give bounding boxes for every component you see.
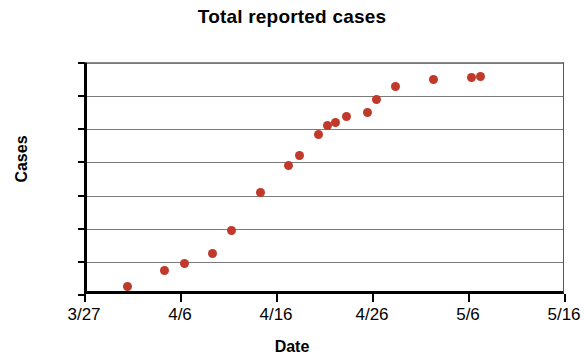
gridline xyxy=(87,63,563,64)
data-point xyxy=(476,72,485,81)
gridline xyxy=(87,262,563,263)
x-tick-mark xyxy=(372,294,374,302)
data-point xyxy=(331,118,340,127)
data-point xyxy=(429,75,438,84)
data-point xyxy=(208,249,217,258)
x-tick-label: 4/26 xyxy=(332,306,412,323)
data-point xyxy=(295,151,304,160)
data-point xyxy=(363,108,372,117)
data-point xyxy=(180,259,189,268)
x-tick-label: 5/6 xyxy=(428,306,508,323)
x-tick-mark xyxy=(468,294,470,302)
data-point xyxy=(284,161,293,170)
data-point xyxy=(467,73,476,82)
gridline xyxy=(87,196,563,197)
plot-area xyxy=(84,62,564,294)
x-tick-mark xyxy=(180,294,182,302)
data-point xyxy=(342,112,351,121)
data-point xyxy=(123,282,132,291)
x-tick-label: 4/6 xyxy=(140,306,220,323)
data-point xyxy=(314,130,323,139)
scatter-chart: Total reported cases Cases 1401201008060… xyxy=(0,0,584,363)
x-axis-title: Date xyxy=(0,338,584,356)
gridline xyxy=(87,96,563,97)
x-tick-label: 3/27 xyxy=(44,306,124,323)
data-point xyxy=(391,82,400,91)
x-tick-mark xyxy=(276,294,278,302)
gridline xyxy=(87,229,563,230)
x-tick-label: 5/16 xyxy=(524,306,584,323)
x-tick-mark xyxy=(564,294,566,302)
x-tick-label: 4/16 xyxy=(236,306,316,323)
data-point xyxy=(160,266,169,275)
data-point xyxy=(256,188,265,197)
x-tick-mark xyxy=(84,294,86,302)
data-point xyxy=(372,95,381,104)
gridline xyxy=(87,162,563,163)
data-point xyxy=(227,226,236,235)
